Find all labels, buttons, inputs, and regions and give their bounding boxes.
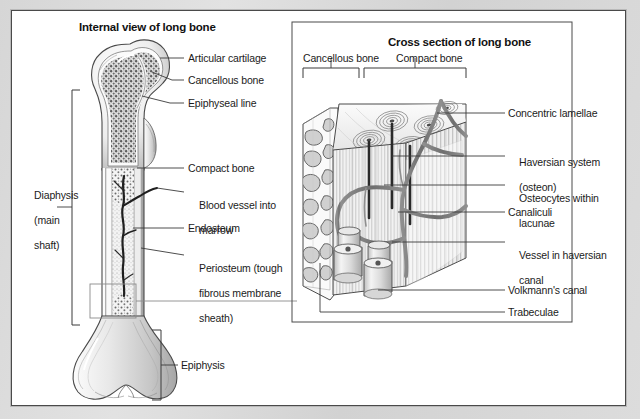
bone-block-illustration	[302, 100, 466, 300]
compact-bone-bracket	[364, 68, 466, 78]
figure-canvas: Internal view of long bone Diaphysis (ma…	[0, 0, 640, 419]
right-panel-title: Cross section of long bone	[388, 36, 531, 48]
diaphysis-label-line1: Diaphysis	[34, 189, 78, 201]
periosteum-label-line3: sheath)	[199, 312, 233, 324]
trabeculae-label: Trabeculae	[508, 306, 559, 319]
osteocytes-label-line1: Osteocytes within	[519, 192, 599, 204]
concentric-lamellae-label: Concentric lamellae	[508, 107, 597, 120]
blood-vessel-label: Blood vessel into marrow	[188, 186, 276, 249]
vessel-haversian-canal-label-line1: Vessel in haversian	[519, 249, 607, 261]
periosteum-label-line1: Periosteum (tough	[199, 262, 282, 274]
compact-bone-bracket-label: Compact bone	[396, 52, 463, 65]
diaphysis-label: Diaphysis (main shaft)	[23, 176, 78, 264]
periosteum-label-line2: fibrous membrane	[199, 287, 281, 299]
volkmanns-canal-label: Volkmann's canal	[508, 284, 587, 297]
left-panel-title: Internal view of long bone	[79, 21, 216, 33]
articular-cartilage-label: Articular cartilage	[188, 52, 266, 65]
periosteum-label: Periosteum (tough fibrous membrane sheat…	[188, 249, 282, 337]
haversian-system-label-line1: Haversian system	[519, 156, 600, 168]
diaphysis-label-line3: shaft)	[34, 239, 59, 251]
cancellous-bone-bracket-label: Cancellous bone	[303, 52, 379, 65]
epiphyseal-line-label: Epiphyseal line	[188, 97, 256, 110]
cancellous-bone-bracket	[303, 68, 359, 78]
cancellous-bone-label: Cancellous bone	[188, 74, 264, 87]
diaphysis-label-line2: (main	[34, 214, 60, 226]
endosteum-label: Endosteum	[188, 222, 240, 235]
canaliculi-label: Canaliculi	[508, 206, 552, 219]
epiphysis-label: Epiphysis	[181, 359, 225, 372]
blood-vessel-label-line1: Blood vessel into	[199, 199, 276, 211]
compact-bone-label: Compact bone	[188, 162, 255, 175]
